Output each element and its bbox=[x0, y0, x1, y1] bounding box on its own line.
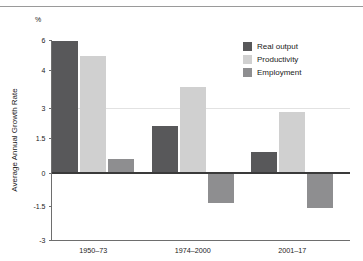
bar-chart: 6431.50-1.5-3 1950–731974–20002001–17 % … bbox=[0, 0, 363, 261]
y-tick-label: 4 bbox=[42, 67, 46, 74]
bar-series-group bbox=[52, 41, 333, 208]
y-tick-label: 6 bbox=[42, 37, 46, 44]
y-axis-unit-label: % bbox=[35, 16, 41, 23]
y-axis-title: Average Annual Growth Rate bbox=[10, 88, 19, 192]
y-tick-label: 0 bbox=[42, 170, 46, 177]
x-axis-category-label: 1950–73 bbox=[79, 246, 107, 255]
legend-label: Employment bbox=[257, 68, 302, 77]
bar bbox=[307, 173, 333, 208]
y-tick-label: -1.5 bbox=[33, 203, 45, 210]
y-axis-ticks: 6431.50-1.5-3 bbox=[33, 37, 51, 244]
legend-label: Productivity bbox=[257, 55, 298, 64]
legend-swatch bbox=[243, 55, 252, 64]
y-tick-label: -3 bbox=[39, 237, 45, 244]
x-axis-category-label: 2001–17 bbox=[278, 246, 306, 255]
bar bbox=[180, 87, 206, 173]
chart-canvas: 6431.50-1.5-3 1950–731974–20002001–17 % … bbox=[0, 0, 363, 261]
bar bbox=[52, 41, 78, 173]
chart-legend: Real outputProductivityEmployment bbox=[243, 42, 302, 77]
legend-label: Real output bbox=[257, 42, 299, 51]
legend-swatch bbox=[243, 68, 252, 77]
x-axis-category-labels: 1950–731974–20002001–17 bbox=[79, 246, 306, 255]
bar bbox=[208, 173, 234, 203]
x-axis-category-label: 1974–2000 bbox=[175, 246, 211, 255]
y-tick-label: 1.5 bbox=[36, 135, 46, 142]
y-tick-label: 3 bbox=[42, 105, 46, 112]
bar bbox=[251, 152, 277, 173]
bar bbox=[80, 56, 106, 173]
bar bbox=[279, 112, 305, 173]
legend-swatch bbox=[243, 42, 252, 51]
bar bbox=[108, 159, 134, 173]
bar bbox=[152, 126, 178, 173]
